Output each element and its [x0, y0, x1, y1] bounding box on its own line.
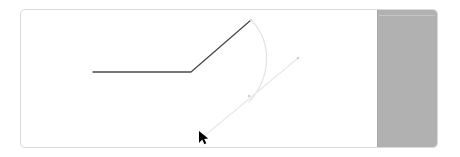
- vector-graphics-layer: [21, 10, 379, 148]
- light-ray[interactable]: [202, 58, 298, 138]
- drawing-area[interactable]: [21, 10, 379, 147]
- dark-polyline[interactable]: [93, 20, 251, 72]
- ray-endpoint-handle[interactable]: [297, 57, 300, 60]
- panel-top-divider: [379, 15, 435, 16]
- light-curve[interactable]: [249, 20, 267, 102]
- screenshot-root: [0, 0, 460, 157]
- polyline-apex-handle[interactable]: [250, 19, 252, 21]
- right-gray-panel[interactable]: [377, 10, 437, 147]
- drawing-canvas[interactable]: [20, 9, 438, 148]
- panel-left-edge: [377, 10, 378, 147]
- curve-midpoint-handle[interactable]: [248, 95, 251, 98]
